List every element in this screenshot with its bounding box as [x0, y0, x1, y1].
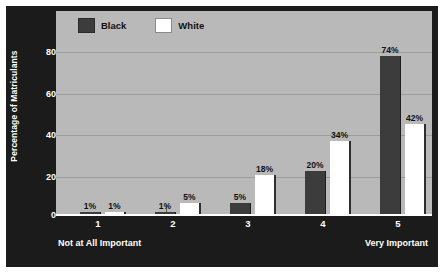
- bar-white-4: 34%: [330, 141, 351, 214]
- bar-white-1: 1%: [105, 212, 126, 214]
- y-tick-0: 0: [26, 210, 56, 220]
- bar-group-3: 5% 18%: [224, 11, 299, 214]
- bar-black-1: 1%: [80, 212, 101, 214]
- bar-black-3: 5%: [230, 203, 251, 214]
- y-axis: Percentage of Matriculants 80 60 40 20 0: [6, 6, 56, 267]
- bar-value-white-3: 18%: [256, 164, 273, 174]
- x-axis: 1 2 3 4 5 Not at All Important Very Impo…: [56, 216, 432, 267]
- bar-value-white-5: 42%: [406, 113, 423, 123]
- y-tick-80: 80: [26, 47, 56, 57]
- bar-black-5: 74%: [380, 56, 401, 214]
- scale-label-high: Very Important: [365, 238, 428, 248]
- scale-label-low: Not at All Important: [58, 238, 141, 248]
- y-tick-20: 20: [26, 172, 56, 182]
- bar-value-white-2: 5%: [183, 192, 195, 202]
- bar-value-black-5: 74%: [381, 45, 398, 55]
- chart-figure: Percentage of Matriculants 80 60 40 20 0…: [6, 6, 438, 267]
- bar-white-2: 5%: [180, 203, 201, 214]
- bar-group-5: 74% 42%: [374, 11, 444, 214]
- bar-white-3: 18%: [255, 175, 276, 214]
- bar-group-2: 1% 5%: [149, 11, 224, 214]
- y-axis-title-text: Percentage of Matriculants: [9, 50, 19, 161]
- bar-value-black-1: 1%: [84, 201, 96, 211]
- y-tick-40: 40: [26, 130, 56, 140]
- bar-value-black-4: 20%: [306, 160, 323, 170]
- bar-value-black-3: 5%: [234, 192, 246, 202]
- x-tick-label-4: 4: [320, 218, 325, 229]
- x-tick-label-5: 5: [395, 218, 400, 229]
- bar-black-2: 1%: [155, 212, 176, 214]
- bar-value-black-2: 1%: [159, 201, 171, 211]
- y-tick-60: 60: [26, 89, 56, 99]
- bar-value-white-1: 1%: [108, 201, 120, 211]
- y-axis-title: Percentage of Matriculants: [6, 6, 22, 206]
- x-tick-label-1: 1: [95, 218, 100, 229]
- bar-white-5: 42%: [405, 124, 426, 214]
- bar-value-white-4: 34%: [331, 130, 348, 140]
- x-tick-label-2: 2: [170, 218, 175, 229]
- plot-area: Black White 1% 1% 1% 5%: [56, 11, 432, 216]
- x-tick-label-3: 3: [245, 218, 250, 229]
- bar-group-4: 20% 34%: [299, 11, 374, 214]
- bar-group-1: 1% 1%: [74, 11, 149, 214]
- bar-black-4: 20%: [305, 171, 326, 214]
